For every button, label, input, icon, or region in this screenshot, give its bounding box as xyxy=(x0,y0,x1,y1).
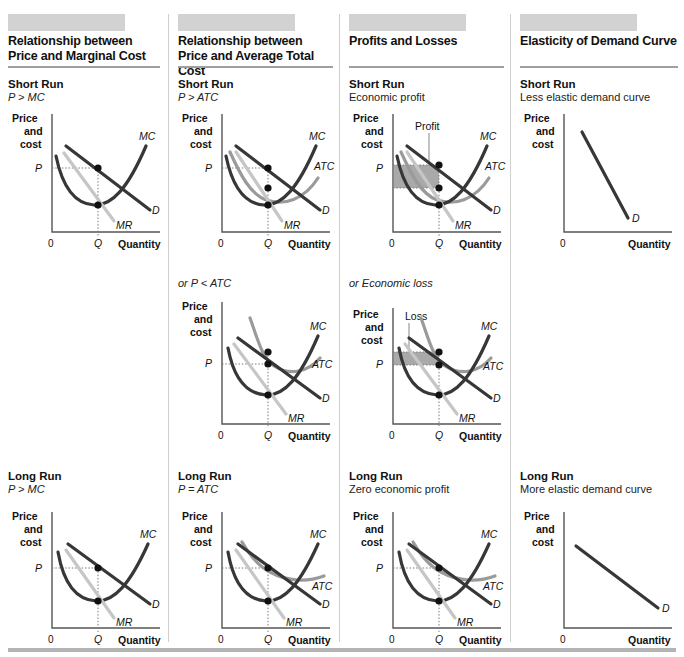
quantity-tick-label: Q xyxy=(264,237,272,249)
block-subtitle-c1-long-run: P > MC xyxy=(8,483,45,496)
origin-label: 0 xyxy=(389,430,395,441)
equilibrium-point-price-atc-tangency xyxy=(264,564,271,571)
y-axis-label-line1: Price xyxy=(353,510,379,522)
x-axis-label: Quantity xyxy=(288,634,331,646)
column-title-price-marginal-cost: Relationship between Price and Marginal … xyxy=(8,34,160,64)
x-axis-label: Quantity xyxy=(288,238,331,250)
block-title-c2-long-run: Long Run xyxy=(178,470,232,483)
header-rule-col-2 xyxy=(178,66,333,68)
curve-label-d: D xyxy=(493,598,501,610)
block-title-c4-short-run: Short Run xyxy=(520,78,576,91)
curve-label-mr: MR xyxy=(286,616,303,628)
curve-label-mr: MR xyxy=(455,219,472,231)
chart-c3-short-run: Price and cost P 0 Q Quantity Profit MC … xyxy=(349,108,509,253)
y-axis-label-line3: cost xyxy=(190,138,212,150)
quantity-tick-label: Q xyxy=(435,237,443,249)
origin-label: 0 xyxy=(48,634,54,645)
header-bar-col-3 xyxy=(349,14,466,31)
curve-label-mc: MC xyxy=(481,528,498,540)
equilibrium-point-mrmc xyxy=(435,391,442,398)
equilibrium-point-price xyxy=(94,164,101,171)
curve-label-d: D xyxy=(632,212,640,224)
y-axis-label-line3: cost xyxy=(361,536,383,548)
y-axis-label-line3: cost xyxy=(361,138,383,150)
block-subtitle-c2-short-run: P > ATC xyxy=(178,91,218,104)
quantity-tick-label: Q xyxy=(264,633,272,645)
curve-label-d: D xyxy=(493,392,501,404)
column-divider-3 xyxy=(510,14,511,642)
x-axis-label: Quantity xyxy=(459,634,502,646)
block-subtitle-c4-short-run: Less elastic demand curve xyxy=(520,91,650,104)
curve-label-atc: ATC xyxy=(311,358,333,370)
x-axis-label: Quantity xyxy=(628,238,671,250)
curve-label-mr: MR xyxy=(459,412,476,424)
chart-c4-long-run: Price and cost 0 Quantity D xyxy=(520,500,680,650)
equilibrium-point-mrmc xyxy=(94,597,101,604)
column-divider-2 xyxy=(339,14,340,642)
curve-label-d: D xyxy=(152,204,160,216)
y-axis-label-line2: and xyxy=(365,523,384,535)
equilibrium-point-mrmc xyxy=(435,597,442,604)
y-axis-label-line3: cost xyxy=(20,138,42,150)
equilibrium-point-mrmc xyxy=(94,201,101,208)
y-axis-label-line3: cost xyxy=(532,536,554,548)
chart-c3-long-run: Price and cost P 0 Q Quantity MC ATC MR … xyxy=(349,500,509,650)
y-axis-label-line2: and xyxy=(365,125,384,137)
block-title-c1-long-run: Long Run xyxy=(8,470,62,483)
origin-label: 0 xyxy=(389,634,395,645)
equilibrium-point-mrmc xyxy=(435,201,442,208)
y-axis-label-line2: and xyxy=(194,523,213,535)
quantity-tick-label: Q xyxy=(435,429,443,441)
curve-label-atc: ATC xyxy=(484,160,506,172)
price-tick-label: P xyxy=(205,162,212,174)
x-axis-label: Quantity xyxy=(459,430,502,442)
block-title-c1-short-run: Short Run xyxy=(8,78,64,91)
y-axis-label-line3: cost xyxy=(20,536,42,548)
equilibrium-point-mrmc xyxy=(264,597,271,604)
price-tick-label: P xyxy=(376,162,383,174)
origin-label: 0 xyxy=(389,238,395,249)
origin-label: 0 xyxy=(218,430,224,441)
chart-c2-short-run-alt: Price and cost P 0 Q Quantity MC ATC MR … xyxy=(178,296,338,446)
block-title-c3-long-run: Long Run xyxy=(349,470,403,483)
x-axis-label: Quantity xyxy=(288,430,331,442)
y-axis-label-line1: Price xyxy=(353,112,379,124)
chart-c1-long-run: Price and cost P 0 Q Quantity MC MR D xyxy=(8,500,168,650)
column-divider-1 xyxy=(168,14,169,642)
y-axis-label-line1: Price xyxy=(12,112,38,124)
block-subtitle-c3-long-run: Zero economic profit xyxy=(349,483,449,496)
header-bar-col-4 xyxy=(520,14,637,31)
price-tick-label: P xyxy=(205,357,212,369)
curve-label-mc: MC xyxy=(310,528,327,540)
price-tick-label: P xyxy=(35,162,42,174)
chart-c2-long-run: Price and cost P 0 Q Quantity MC ATC MR … xyxy=(178,500,338,650)
block-title-c3-short-run: Short Run xyxy=(349,78,405,91)
curve-label-d: D xyxy=(493,204,501,216)
block-subtitle-c2-short-run-alt: or P < ATC xyxy=(178,277,231,290)
curve-label-d: D xyxy=(322,598,330,610)
block-subtitle-c2-long-run: P = ATC xyxy=(178,483,218,496)
curve-label-atc: ATC xyxy=(311,580,333,592)
equilibrium-point-atc xyxy=(435,184,442,191)
origin-label: 0 xyxy=(560,238,566,249)
header-rule-col-4 xyxy=(520,66,678,68)
equilibrium-point-atc xyxy=(264,348,271,355)
curve-label-mr: MR xyxy=(116,616,133,628)
chart-c1-short-run: Price and cost P 0 Q Quantity MC MR D xyxy=(8,108,168,253)
curve-label-mr: MR xyxy=(116,219,133,231)
annotation-profit: Profit xyxy=(415,120,440,132)
y-axis-label-line1: Price xyxy=(182,112,208,124)
price-tick-label: P xyxy=(376,562,383,574)
curve-label-d: D xyxy=(662,602,670,614)
y-axis-label-line3: cost xyxy=(361,334,383,346)
curve-label-mr: MR xyxy=(288,412,305,424)
y-axis-label-line1: Price xyxy=(182,300,208,312)
y-axis-label-line2: and xyxy=(194,125,213,137)
block-title-c2-short-run: Short Run xyxy=(178,78,234,91)
header-rule-col-1 xyxy=(8,66,160,68)
origin-label: 0 xyxy=(218,238,224,249)
price-tick-label: P xyxy=(205,562,212,574)
y-axis-label-line2: and xyxy=(24,125,43,137)
block-subtitle-c1-short-run: P > MC xyxy=(8,91,45,104)
curve-label-atc: ATC xyxy=(482,580,504,592)
